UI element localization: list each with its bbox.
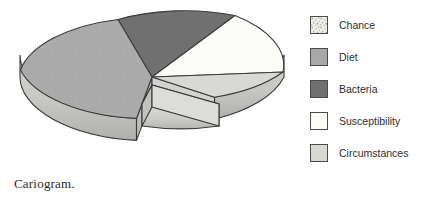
legend-label-chance: Chance: [339, 20, 375, 31]
legend-swatch-susceptibility-icon: [310, 112, 328, 130]
legend-label-circumstances: Circumstances: [339, 148, 408, 159]
legend-swatch-chance-icon: [310, 16, 328, 34]
legend-item-susceptibility[interactable]: Susceptibility: [310, 111, 437, 131]
legend-label-susceptibility: Susceptibility: [339, 116, 400, 127]
legend-swatch-circumstances-icon: [310, 144, 328, 162]
figure-caption: Cariogram.: [14, 176, 75, 192]
cariogram-figure: Cariogram. Chance Diet Bacteria Suscepti…: [0, 0, 437, 220]
pie-chart: [0, 0, 300, 195]
legend-label-diet: Diet: [339, 52, 358, 63]
legend-item-circumstances[interactable]: Circumstances: [310, 143, 437, 163]
speckle-fill-icon: [311, 17, 327, 33]
chart-legend: Chance Diet Bacteria Susceptibility Circ…: [310, 15, 437, 175]
legend-swatch-diet-icon: [310, 48, 328, 66]
legend-item-diet[interactable]: Diet: [310, 47, 437, 67]
legend-label-bacteria: Bacteria: [339, 84, 378, 95]
legend-swatch-bacteria-icon: [310, 80, 328, 98]
legend-item-bacteria[interactable]: Bacteria: [310, 79, 437, 99]
legend-item-chance[interactable]: Chance: [310, 15, 437, 35]
